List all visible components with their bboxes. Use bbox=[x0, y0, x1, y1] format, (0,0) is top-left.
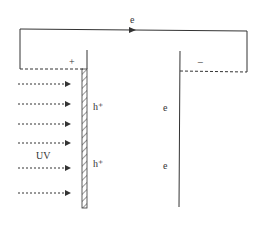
photoanode: + bbox=[69, 50, 87, 208]
photoelectrochemical-cell-diagram: e + − UV h⁺ h⁺ e e bbox=[0, 0, 263, 228]
electron-label-2: e bbox=[163, 160, 168, 171]
hole-label-2: h⁺ bbox=[93, 158, 103, 169]
uv-label: UV bbox=[36, 150, 51, 161]
electron-label-1: e bbox=[163, 102, 168, 113]
hatched-photoanode-film bbox=[82, 69, 87, 208]
top-wire bbox=[20, 29, 247, 72]
cathode: − bbox=[179, 51, 203, 207]
uv-light-arrows bbox=[18, 84, 70, 193]
external-circuit: e bbox=[20, 14, 247, 72]
hole-label-1: h⁺ bbox=[93, 101, 103, 112]
right-dashed-connector bbox=[180, 71, 247, 72]
anode-sign: + bbox=[69, 56, 75, 67]
electron-flow-label: e bbox=[130, 14, 135, 25]
cathode-sign: − bbox=[197, 56, 203, 68]
electron-flow-arrow-icon bbox=[129, 27, 136, 33]
